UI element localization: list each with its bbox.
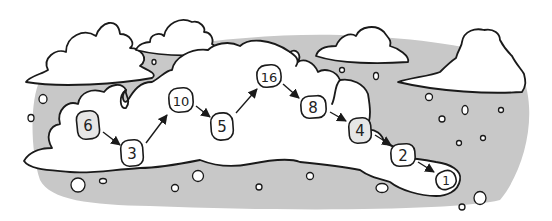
node-4: 4 xyxy=(348,117,372,143)
node-label: 8 xyxy=(308,99,318,117)
node-label: 5 xyxy=(217,118,227,136)
node-label: 10 xyxy=(173,94,190,109)
node-label: 1 xyxy=(442,174,450,188)
node-label: 2 xyxy=(398,147,408,165)
node-8: 8 xyxy=(300,95,326,119)
node-label: 16 xyxy=(261,70,278,85)
node-label: 3 xyxy=(127,145,137,163)
cloud-top-left xyxy=(26,23,154,85)
node-6: 6 xyxy=(76,110,101,140)
node-2: 2 xyxy=(390,143,415,167)
node-label: 4 xyxy=(355,122,365,140)
collatz-cloud-illustration: 6 3 10 5 16 8 4 2 xyxy=(0,0,552,221)
node-10: 10 xyxy=(168,87,194,113)
node-3: 3 xyxy=(120,139,144,166)
node-5: 5 xyxy=(210,112,234,140)
node-label: 6 xyxy=(83,117,93,135)
node-16: 16 xyxy=(256,64,282,88)
